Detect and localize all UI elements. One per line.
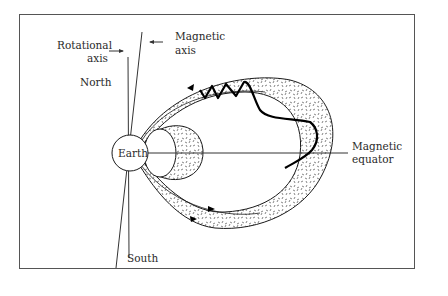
label-magnetic-equator-1: Magnetic [352,140,402,152]
label-magnetic-equator-2: equator [352,153,394,165]
arrow-icon [119,49,124,53]
label-south: South [127,252,158,264]
arrow-icon [149,40,154,44]
label-rotational-axis-1: Rotational [57,39,113,51]
label-earth: Earth [118,147,148,159]
label-north: North [80,76,112,88]
label-magnetic-axis-2: axis [175,44,196,56]
label-rotational-axis-2: axis [87,52,108,64]
label-magnetic-axis-1: Magnetic [175,30,225,42]
magnetosphere-diagram: Rotational axis Magnetic axis North Sout… [0,0,448,296]
field-line-arrow-icon [187,84,194,91]
